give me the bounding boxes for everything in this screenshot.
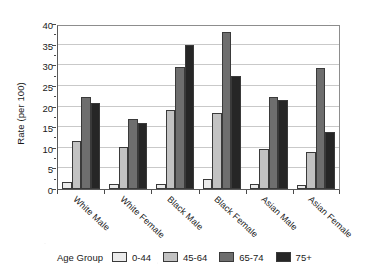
y-tick-mark [52, 189, 56, 190]
y-tick-label: 30 [23, 61, 53, 72]
bar-group [58, 26, 105, 189]
bar[interactable] [269, 97, 279, 189]
y-tick-label: 40 [23, 20, 53, 31]
bar[interactable] [222, 32, 232, 189]
y-tick-mark-minor [54, 137, 56, 138]
y-tick-mark-minor [54, 76, 56, 77]
y-tick-mark [52, 45, 56, 46]
y-tick-mark [52, 168, 56, 169]
legend-label: 0-44 [132, 252, 151, 263]
y-tick-mark-minor [54, 158, 56, 159]
bar-groups [58, 26, 339, 189]
y-tick-mark-minor [54, 55, 56, 56]
y-tick-mark [52, 86, 56, 87]
bar[interactable] [250, 184, 260, 189]
y-tick-mark-minor [54, 117, 56, 118]
bar[interactable] [212, 113, 222, 189]
x-label-cell: White Female [104, 190, 151, 250]
bar[interactable] [119, 147, 129, 189]
legend-item[interactable]: 0-44 [112, 252, 151, 263]
legend-label: 75+ [296, 252, 312, 263]
legend-swatch [276, 252, 291, 262]
bar-chart-figure: Rate (per 100) 0510152025303540 White Ma… [0, 0, 375, 277]
bar[interactable] [128, 119, 138, 189]
y-tick-label: 20 [23, 102, 53, 113]
y-axis-ticks: 0510152025303540 [19, 25, 53, 190]
bar-group [105, 26, 152, 189]
bar[interactable] [306, 152, 316, 189]
legend: Age Group 0-4445-6465-7475+ [57, 249, 324, 265]
x-label-cell: White Male [57, 190, 104, 250]
y-tick-label: 25 [23, 81, 53, 92]
bar[interactable] [185, 45, 195, 189]
bar[interactable] [72, 141, 82, 189]
y-tick-mark [52, 148, 56, 149]
legend-item[interactable]: 75+ [276, 252, 312, 263]
bar[interactable] [203, 179, 213, 189]
bar[interactable] [156, 184, 166, 189]
y-tick-label: 0 [23, 185, 53, 196]
y-tick-label: 35 [23, 40, 53, 51]
y-tick-mark [52, 24, 56, 25]
bar[interactable] [138, 123, 148, 189]
y-tick-mark [52, 107, 56, 108]
bar-group [152, 26, 199, 189]
y-tick-mark [52, 127, 56, 128]
y-tick-label: 5 [23, 164, 53, 175]
legend-swatch [163, 252, 178, 262]
bar-group [245, 26, 292, 189]
bar[interactable] [91, 103, 101, 189]
legend-item[interactable]: 45-64 [163, 252, 207, 263]
x-axis-tick-label: Asian Female [307, 194, 355, 240]
plot-area [57, 25, 340, 190]
bar[interactable] [62, 182, 72, 189]
x-label-cell: Black Male [151, 190, 198, 250]
y-tick-mark-minor [54, 34, 56, 35]
legend-label: 45-64 [183, 252, 207, 263]
y-tick-mark-minor [54, 179, 56, 180]
bar[interactable] [297, 185, 307, 189]
x-label-cell: Black Female [199, 190, 246, 250]
y-tick-label: 10 [23, 143, 53, 154]
bar[interactable] [166, 110, 176, 189]
bar[interactable] [109, 184, 119, 189]
bar[interactable] [278, 100, 288, 190]
bar-group [292, 26, 339, 189]
legend-label: 65-74 [239, 252, 263, 263]
bar[interactable] [231, 76, 241, 189]
x-label-cell: Asian Male [246, 190, 293, 250]
legend-title: Age Group [57, 252, 103, 263]
legend-item[interactable]: 65-74 [219, 252, 263, 263]
y-tick-mark [52, 65, 56, 66]
y-tick-label: 15 [23, 123, 53, 134]
x-axis-labels: White MaleWhite FemaleBlack MaleBlack Fe… [57, 190, 340, 250]
bar[interactable] [259, 149, 269, 189]
bar[interactable] [81, 97, 91, 189]
bar[interactable] [316, 68, 326, 189]
y-tick-mark-minor [54, 96, 56, 97]
legend-swatch [219, 252, 234, 262]
legend-swatch [112, 252, 127, 262]
bar[interactable] [175, 67, 185, 189]
bar-group [198, 26, 245, 189]
x-label-cell: Asian Female [293, 190, 340, 250]
bar[interactable] [325, 132, 335, 189]
